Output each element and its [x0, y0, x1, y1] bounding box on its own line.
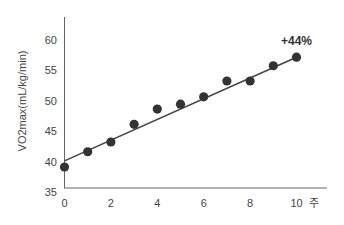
data-point	[153, 104, 162, 113]
trend-line	[65, 57, 297, 161]
data-point	[292, 53, 301, 62]
data-point	[60, 162, 69, 171]
y-tick-labels: 354045505560	[45, 34, 57, 199]
x-tick-label: 0	[61, 197, 67, 209]
y-tick-label: 45	[45, 125, 57, 137]
y-tick-label: 35	[45, 186, 57, 198]
chart-canvas: VO2max(mL/kg/min) 354045505560 0246810 주…	[0, 0, 344, 225]
data-point	[222, 76, 231, 85]
data-point	[199, 92, 208, 101]
y-tick-label: 40	[45, 156, 57, 168]
y-tick-label: 55	[45, 64, 57, 76]
data-point	[176, 100, 185, 109]
x-tick-labels: 0246810	[61, 197, 302, 209]
data-point	[246, 76, 255, 85]
y-axis-title-group: VO2max(mL/kg/min)	[16, 51, 28, 152]
percent-change-annotation: +44%	[281, 34, 312, 48]
x-tick-label: 6	[201, 197, 207, 209]
y-axis-title: VO2max(mL/kg/min)	[16, 51, 28, 152]
x-axis-title: 주	[309, 197, 319, 209]
data-point	[83, 147, 92, 156]
vo2max-chart: VO2max(mL/kg/min) 354045505560 0246810 주…	[0, 0, 344, 225]
x-tick-label: 2	[108, 197, 114, 209]
x-tick-label: 10	[290, 197, 302, 209]
y-tick-label: 50	[45, 95, 57, 107]
y-tick-label: 60	[45, 34, 57, 46]
data-point	[269, 61, 278, 70]
x-tick-label: 4	[154, 197, 160, 209]
data-point	[106, 137, 115, 146]
annotations: +44%	[281, 34, 312, 48]
x-tick-label: 8	[247, 197, 253, 209]
data-point	[130, 120, 139, 129]
